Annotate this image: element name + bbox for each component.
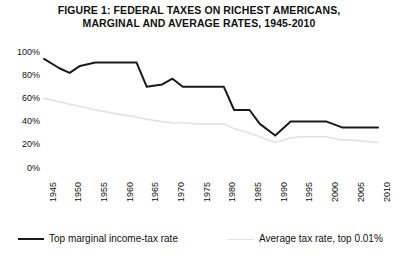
legend-line-swatch-icon bbox=[228, 239, 254, 240]
x-axis-tick-labels: 1945195019551960196519701975198019851990… bbox=[0, 172, 398, 232]
legend-label: Top marginal income-tax rate bbox=[49, 233, 178, 245]
legend-entry: Top marginal income-tax rate bbox=[18, 228, 178, 250]
x-axis-tick-label: 1945 bbox=[49, 182, 58, 202]
x-axis-tick-label: 1985 bbox=[254, 182, 263, 202]
x-axis-tick-label: 1990 bbox=[280, 182, 289, 202]
x-axis-tick-label: 1975 bbox=[203, 182, 212, 202]
x-axis-tick-label: 1970 bbox=[177, 182, 186, 202]
legend-label: Average tax rate, top 0.01% bbox=[259, 233, 383, 245]
x-axis-tick-label: 1960 bbox=[126, 182, 135, 202]
x-axis-tick-label: 1995 bbox=[305, 182, 314, 202]
x-axis-tick-label: 1955 bbox=[100, 182, 109, 202]
average-tax-rate-line bbox=[44, 98, 378, 142]
figure-container: FIGURE 1: FEDERAL TAXES ON RICHEST AMERI… bbox=[0, 0, 398, 256]
x-axis-tick-label: 1980 bbox=[228, 182, 237, 202]
chart-title: FIGURE 1: FEDERAL TAXES ON RICHEST AMERI… bbox=[0, 4, 398, 30]
legend-entry: Average tax rate, top 0.01% bbox=[228, 228, 383, 250]
x-axis-tick-label: 2005 bbox=[357, 182, 366, 202]
x-axis-tick-label: 1965 bbox=[151, 182, 160, 202]
x-axis-tick-label: 1950 bbox=[74, 182, 83, 202]
x-axis-tick-label: 2010 bbox=[383, 182, 392, 202]
legend-line-swatch-icon bbox=[18, 238, 44, 240]
x-axis-tick-label: 2000 bbox=[331, 182, 340, 202]
chart-legend: Top marginal income-tax rateAverage tax … bbox=[0, 228, 398, 250]
series-average-tax-rate bbox=[44, 98, 378, 142]
x-axis: 1945195019551960196519701975198019851990… bbox=[0, 172, 398, 224]
